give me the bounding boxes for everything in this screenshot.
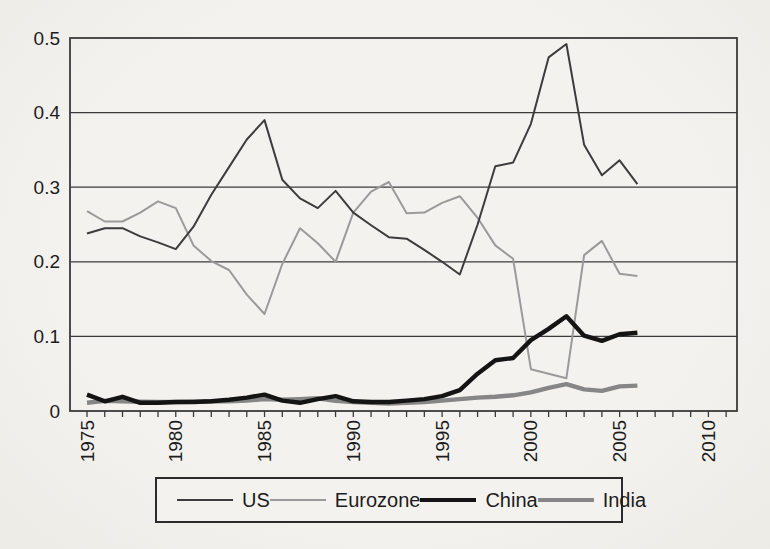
x-tick-label-2005: 2005 [609, 420, 630, 462]
x-tick-label-1995: 1995 [432, 420, 453, 462]
us-line-sample [177, 499, 233, 501]
legend-label-india: India [603, 490, 646, 510]
plot-border [70, 38, 737, 411]
legend: US Eurozone China India [155, 477, 623, 523]
y-tick-label-0.5: 0.5 [34, 28, 60, 49]
x-tick-label-2010: 2010 [698, 420, 719, 462]
legend-item-eurozone: Eurozone [270, 490, 421, 510]
legend-label-us: US [242, 490, 270, 510]
legend-item-china: China [420, 490, 537, 510]
legend-label-eurozone: Eurozone [335, 490, 421, 510]
x-tick-label-1985: 1985 [254, 420, 275, 462]
eurozone-line [87, 182, 637, 378]
scanned-chart-figure: 00.10.20.30.40.5197519801985199019952000… [0, 0, 770, 549]
x-tick-label-1990: 1990 [343, 420, 364, 462]
eurozone-line-sample [270, 499, 326, 501]
legend-item-us: US [177, 490, 270, 510]
india-line-sample [538, 498, 594, 502]
y-tick-label-0.1: 0.1 [34, 326, 60, 347]
y-tick-label-0: 0 [49, 401, 60, 422]
china-line-sample [420, 498, 476, 502]
y-tick-label-0.3: 0.3 [34, 177, 60, 198]
x-tick-label-2000: 2000 [520, 420, 541, 462]
line-chart-canvas: 00.10.20.30.40.5197519801985199019952000… [0, 0, 770, 549]
x-tick-label-1980: 1980 [165, 420, 186, 462]
y-tick-label-0.4: 0.4 [34, 102, 61, 123]
us-line [87, 44, 637, 275]
x-tick-label-1975: 1975 [77, 420, 98, 462]
legend-item-india: India [538, 490, 646, 510]
legend-label-china: China [485, 490, 537, 510]
china-line [87, 316, 637, 403]
y-tick-label-0.2: 0.2 [34, 251, 60, 272]
